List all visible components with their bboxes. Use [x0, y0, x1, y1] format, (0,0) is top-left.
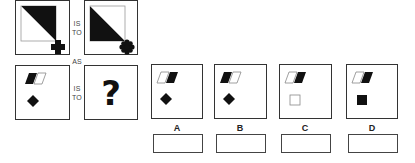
option-c-figure[interactable] [279, 64, 332, 119]
option-d-answer-box[interactable] [348, 134, 398, 153]
figure-3 [15, 65, 70, 120]
square-outline-icon [280, 65, 333, 120]
unknown-figure: ? [84, 65, 138, 120]
option-c-answer-box[interactable] [281, 134, 331, 153]
is-label: IS [72, 19, 82, 28]
option-b-answer-box[interactable] [216, 134, 266, 153]
option-d-figure[interactable] [346, 64, 398, 119]
option-a-figure[interactable] [151, 64, 203, 119]
cross-icon [16, 1, 71, 56]
diamond-icon [152, 65, 204, 120]
figure-2 [84, 0, 138, 55]
option-d-label: D [362, 123, 382, 133]
is-label-2: IS [72, 84, 82, 93]
option-b-figure[interactable] [214, 64, 267, 119]
option-c-label: C [295, 123, 315, 133]
option-b-label: B [230, 123, 250, 133]
to-label: TO [72, 28, 82, 37]
diamond-icon [16, 66, 71, 121]
figure-1 [15, 0, 70, 55]
option-a-answer-box[interactable] [153, 134, 203, 153]
as-label: AS [71, 57, 83, 66]
flower-icon [85, 1, 139, 56]
option-a-label: A [167, 123, 187, 133]
question-mark: ? [85, 66, 137, 119]
to-label-2: TO [72, 93, 82, 102]
square-filled-icon [347, 65, 399, 120]
diamond-icon [215, 65, 268, 120]
